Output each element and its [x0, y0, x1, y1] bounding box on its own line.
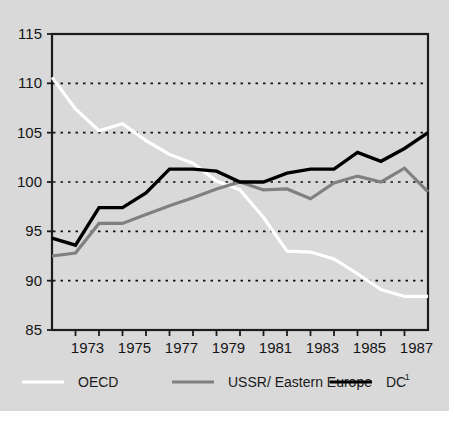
legend-label-oecd[interactable]: OECD	[78, 374, 118, 390]
x-axis-tick-labels: 19731975197719791981198319851987	[71, 339, 433, 356]
y-tick-label-95: 95	[25, 222, 42, 239]
y-tick-label-115: 115	[18, 25, 42, 42]
x-tick-label-1981: 1981	[259, 339, 292, 356]
x-tick-label-1975: 1975	[118, 339, 151, 356]
y-axis-tick-labels: 859095100105110115	[17, 25, 42, 338]
data-series-group	[52, 77, 428, 296]
legend-label-dc[interactable]: DC	[386, 374, 406, 390]
y-tick-label-90: 90	[25, 272, 42, 289]
x-tick-label-1983: 1983	[306, 339, 339, 356]
chart-figure: 859095100105110115 197319751977197919811…	[0, 0, 449, 411]
y-tick-label-100: 100	[17, 173, 42, 190]
chart-legend: OECDUSSR/ Eastern EuropeDC1	[22, 372, 410, 390]
line-chart: 859095100105110115 197319751977197919811…	[0, 0, 449, 411]
x-tick-label-1977: 1977	[165, 339, 198, 356]
y-tick-label-85: 85	[25, 321, 42, 338]
x-tick-label-1987: 1987	[400, 339, 433, 356]
x-tick-label-1979: 1979	[212, 339, 245, 356]
y-tick-label-105: 105	[17, 124, 42, 141]
x-tick-label-1985: 1985	[353, 339, 386, 356]
series-line-oecd	[52, 77, 428, 296]
legend-superscript-dc: 1	[405, 372, 410, 382]
y-tick-label-110: 110	[18, 74, 42, 91]
x-tick-label-1973: 1973	[71, 339, 104, 356]
